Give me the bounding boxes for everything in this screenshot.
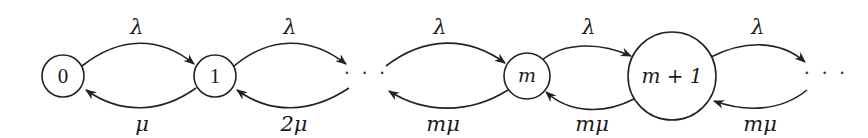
edge-ellipsis-to-m bbox=[386, 43, 505, 66]
state-node-m: m bbox=[504, 53, 550, 99]
rate-label-mu-2: mμ bbox=[426, 112, 460, 136]
rate-label-mu-0: μ bbox=[135, 112, 149, 136]
rate-label-lambda-0: λ bbox=[129, 15, 143, 39]
rate-label-lambda-3: λ bbox=[581, 15, 595, 39]
state-node-1: 1 bbox=[194, 55, 236, 97]
edge-m1-to-ellipsis bbox=[711, 45, 805, 62]
state-node-0: 0 bbox=[42, 55, 84, 97]
state-label-m: m bbox=[518, 64, 536, 86]
edge-ellipsis-to-m1 bbox=[714, 90, 807, 108]
edge-1-to-0 bbox=[86, 88, 196, 108]
ellipsis-left: · · · bbox=[344, 62, 389, 84]
state-node-m-plus-1: m + 1 bbox=[628, 32, 716, 120]
edge-m1-to-m bbox=[546, 92, 634, 109]
rate-label-mu-1: 2μ bbox=[279, 112, 307, 136]
state-label-1: 1 bbox=[210, 64, 221, 88]
rate-label-mu-4: mμ bbox=[743, 112, 777, 136]
edge-m-to-m1 bbox=[542, 46, 631, 60]
rate-label-lambda-1: λ bbox=[282, 15, 296, 39]
state-label-m-plus-1: m + 1 bbox=[641, 64, 702, 88]
edge-m-to-ellipsis bbox=[389, 90, 508, 108]
ellipsis-right: · · · bbox=[804, 62, 849, 84]
state-label-0: 0 bbox=[58, 64, 69, 88]
edge-1-to-ellipsis bbox=[234, 43, 346, 66]
state-transition-diagram: 0 1 · · · m m + 1 · · · λ λ λ λ λ μ 2μ m… bbox=[0, 0, 868, 138]
rate-label-lambda-4: λ bbox=[750, 15, 764, 39]
edge-ellipsis-to-1 bbox=[237, 88, 349, 108]
edge-0-to-1 bbox=[82, 43, 194, 66]
rate-label-lambda-2: λ bbox=[432, 15, 446, 39]
rate-label-mu-3: mμ bbox=[575, 112, 609, 136]
